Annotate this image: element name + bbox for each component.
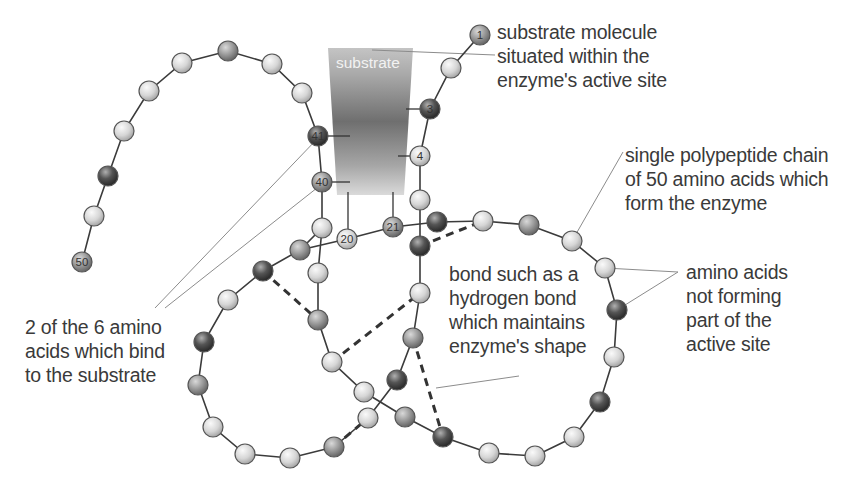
amino-acid-bead — [292, 83, 312, 103]
amino-acid-number: 4 — [417, 150, 424, 162]
amino-acid-number: 41 — [312, 130, 325, 142]
amino-acid-50: 50 — [72, 252, 92, 272]
amino-acid-bead — [188, 375, 208, 395]
amino-acid-bead — [308, 263, 328, 283]
amino-acid-21: 21 — [383, 217, 403, 237]
amino-acid-bead — [203, 417, 223, 437]
amino-acid-bead — [595, 258, 615, 278]
amino-acid-bead — [139, 81, 159, 101]
amino-acid-bead — [590, 392, 610, 412]
amino-acid-bead — [433, 427, 453, 447]
amino-acid-1: 1 — [470, 25, 490, 45]
amino-acid-number: 20 — [341, 233, 354, 245]
label-binding-amino-acids: 2 of the 6 amino acids which bind to the… — [25, 315, 165, 387]
amino-acid-bead — [410, 236, 430, 256]
amino-acid-bead — [262, 54, 282, 74]
amino-acid-bead — [410, 190, 430, 210]
amino-acid-20: 20 — [337, 229, 357, 249]
amino-acid-bead — [312, 218, 332, 238]
amino-acid-bead — [562, 231, 582, 251]
amino-acid-bead — [290, 240, 310, 260]
amino-acid-bead — [479, 443, 499, 463]
amino-acid-bead — [324, 437, 344, 457]
label-hydrogen-bond: bond such as a hydrogen bond which maint… — [449, 262, 587, 358]
label-substrate-molecule: substrate molecule situated within the e… — [497, 20, 667, 92]
enzyme-diagram: substrate 1342021404150 — [0, 0, 859, 492]
amino-acid-bead — [473, 211, 493, 231]
amino-acid-number: 3 — [427, 103, 433, 115]
amino-acid-bead — [387, 370, 407, 390]
amino-acid-bead — [280, 448, 300, 468]
amino-acid-bead — [358, 408, 378, 428]
amino-acid-40: 40 — [312, 172, 332, 192]
amino-acid-bead — [607, 300, 627, 320]
label-amino-acids-not-forming-active-site: amino acids not forming part of the acti… — [686, 260, 788, 356]
amino-acid-bead — [322, 352, 342, 372]
amino-acid-bead — [564, 427, 584, 447]
amino-acid-number: 21 — [387, 221, 400, 233]
amino-acid-number: 50 — [76, 256, 89, 268]
amino-acid-bead — [253, 261, 273, 281]
amino-acid-bead — [354, 382, 374, 402]
amino-acid-bead — [218, 41, 238, 61]
label-polypeptide-chain: single polypeptide chain of 50 amino aci… — [625, 143, 829, 215]
amino-acid-bead — [410, 283, 430, 303]
amino-acid-bead — [308, 310, 328, 330]
amino-acid-41: 41 — [308, 126, 328, 146]
amino-acid-bead — [218, 290, 238, 310]
substrate-molecule: substrate — [328, 48, 413, 195]
amino-acid-bead — [194, 332, 214, 352]
amino-acid-bead — [172, 53, 192, 73]
amino-acid-4: 4 — [410, 146, 430, 166]
amino-acid-bead — [604, 347, 624, 367]
amino-acid-bead — [441, 58, 461, 78]
amino-acid-bead — [84, 206, 104, 226]
amino-acid-bead — [427, 212, 447, 232]
amino-acid-bead — [519, 215, 539, 235]
amino-acid-number: 1 — [477, 29, 483, 41]
amino-acid-3: 3 — [420, 99, 440, 119]
amino-acid-bead — [395, 407, 415, 427]
substrate-label: substrate — [336, 54, 400, 71]
amino-acid-bead — [114, 121, 134, 141]
polypeptide-chain-inner-strand — [334, 156, 420, 447]
hydrogen-bond-line — [332, 293, 420, 362]
amino-acid-bead — [525, 446, 545, 466]
amino-acid-bead — [235, 444, 255, 464]
amino-acid-bead — [98, 166, 118, 186]
amino-acid-bead — [403, 328, 423, 348]
amino-acid-number: 40 — [316, 176, 329, 188]
